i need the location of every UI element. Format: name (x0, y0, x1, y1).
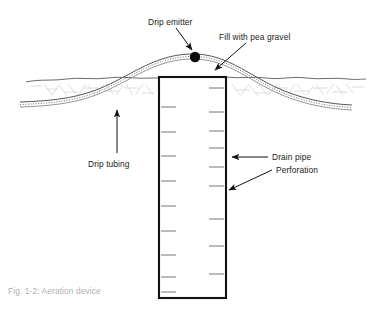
label-drip-tubing: Drip tubing (88, 159, 130, 169)
drain-pipe-body (159, 77, 226, 298)
drip-emitter-dot (190, 52, 200, 62)
pea-gravel-leader (215, 43, 246, 70)
label-fill-with-pea-gravel: Fill with pea gravel (219, 32, 290, 42)
label-drip-emitter: Drip emitter (148, 17, 193, 27)
label-drain-pipe: Drain pipe (272, 152, 311, 162)
aeration-device-diagram: Drip emitter Fill with pea gravel Drip t… (0, 0, 386, 314)
perforation-leader (229, 170, 272, 190)
ground-line-right (226, 77, 366, 79)
drip-emitter-leader (176, 28, 192, 50)
ground-line-left (26, 77, 159, 82)
label-perforation: Perforation (276, 165, 318, 175)
figure-caption: Fig. 1-2: Aeration device (8, 286, 101, 296)
figure-container: Drip emitter Fill with pea gravel Drip t… (0, 0, 386, 314)
